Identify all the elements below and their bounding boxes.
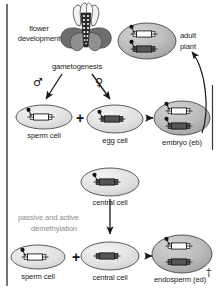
- gene-body: [172, 259, 187, 265]
- gene-body: [172, 243, 187, 249]
- cell-membrane: [118, 23, 176, 59]
- fertilization-plus-top: +: [76, 110, 84, 126]
- central-cell-bottom-label: central cell: [92, 273, 127, 282]
- methylation-mark-icon: [129, 40, 133, 44]
- embryo-label: embryo (eb): [162, 138, 202, 147]
- cell-membrane: [152, 235, 212, 273]
- figure-canvas: flower development gametogenesis ♂ ♀ adu…: [0, 0, 220, 289]
- methylation-mark-icon: [164, 237, 168, 241]
- male-gametogenesis-arrow: [46, 74, 62, 99]
- cells-layer: [11, 23, 212, 273]
- endosperm-label: endosperm (ed): [154, 275, 206, 284]
- sperm-cell-top-label: sperm cell: [27, 131, 61, 140]
- cell-endosperm: [152, 235, 212, 273]
- cell-sperm-cell-bottom: [11, 245, 65, 269]
- methylation-mark-icon: [129, 25, 133, 29]
- flower-development-label-line2: development: [18, 34, 60, 43]
- cell-adult-plant: [118, 23, 176, 59]
- sperm-cell-bottom-label: sperm cell: [21, 272, 55, 281]
- male-symbol-icon: ♂: [33, 76, 43, 89]
- methylation-mark-icon: [164, 102, 168, 106]
- gene-cassette-methylated: [94, 253, 121, 259]
- flower-development-label-line1: flower: [29, 24, 49, 33]
- dagger-icon: †: [206, 266, 212, 279]
- gene-body: [137, 46, 152, 52]
- cell-central-cell-top: [81, 168, 139, 196]
- methylation-mark-icon: [20, 248, 24, 252]
- gene-body: [100, 179, 115, 185]
- central-cell-top-label: central cell: [92, 198, 127, 207]
- egg-cell-label: egg cell: [102, 136, 127, 145]
- fertilization-plus-bottom: +: [72, 249, 80, 265]
- cell-egg-cell: [87, 105, 143, 133]
- gene-body: [34, 114, 49, 120]
- gametogenesis-label: gametogenesis: [52, 62, 102, 71]
- flower-icon: [61, 3, 111, 51]
- gene-body: [105, 116, 120, 122]
- demethylation-label-line2: demethylation: [31, 224, 77, 233]
- methylation-mark-icon: [164, 117, 168, 121]
- cell-central-cell-bottom: [81, 242, 139, 270]
- gene-body: [172, 123, 187, 129]
- cell-sperm-cell-top: [16, 105, 72, 129]
- gene-body: [137, 31, 152, 37]
- methylation-mark-icon: [92, 173, 96, 177]
- female-symbol-icon: ♀: [95, 76, 103, 89]
- gene-body: [28, 254, 43, 260]
- gene-body: [172, 108, 187, 114]
- gene-body: [100, 253, 115, 259]
- methylation-mark-icon: [97, 110, 101, 114]
- adult-plant-label-line1: adult: [180, 31, 196, 40]
- methylation-mark-icon: [26, 108, 30, 112]
- cell-embryo: [154, 101, 210, 135]
- gene-cassette-methylated: [166, 259, 193, 265]
- cell-membrane: [154, 101, 210, 135]
- demethylation-label-line1: passive and active: [18, 213, 79, 222]
- adult-plant-label-line2: plant: [180, 42, 196, 51]
